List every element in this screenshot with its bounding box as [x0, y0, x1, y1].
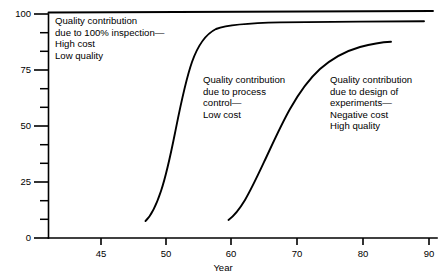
annotation-doe-line-2: due to design of	[330, 86, 412, 98]
x-tick-label-80: 80	[348, 249, 378, 259]
y-tick-label-50: 50	[2, 121, 31, 131]
x-tick-label-50: 50	[151, 249, 181, 259]
x-tick-label-60: 60	[216, 249, 246, 259]
annotation-doe-line-4: Negative cost	[330, 109, 412, 121]
x-tick-label-90: 90	[414, 249, 444, 259]
annotation-process-control-line-1: Quality contribution	[203, 74, 285, 86]
annotation-process-control-line-2: due to process	[203, 86, 285, 98]
annotation-inspection-line-1: Quality contribution	[55, 15, 164, 27]
annotation-process-control-line-4: Low cost	[203, 109, 285, 121]
y-tick-label-100: 100	[2, 9, 31, 19]
annotation-inspection-line-2: due to 100% inspection—	[55, 27, 164, 39]
annotation-doe-line-5: High quality	[330, 120, 412, 132]
annotation-process-control-line-3: control—	[203, 97, 285, 109]
x-tick-label-45: 45	[86, 249, 116, 259]
annotation-inspection-line-4: Low quality	[55, 50, 164, 62]
y-tick-label-75: 75	[2, 65, 31, 75]
quality-contribution-chart: 100 75 50 25 0 45 50 60 70 80 90 Year Qu…	[0, 0, 446, 276]
annotation-design-of-experiments: Quality contribution due to design of ex…	[330, 74, 412, 132]
annotation-doe-line-3: experiments—	[330, 97, 412, 109]
annotation-process-control: Quality contribution due to process cont…	[203, 74, 285, 120]
y-tick-label-0: 0	[2, 233, 31, 243]
series-line-inspection	[49, 11, 434, 13]
annotation-inspection-line-3: High cost	[55, 38, 164, 50]
x-tick-label-70: 70	[282, 249, 312, 259]
annotation-doe-line-1: Quality contribution	[330, 74, 412, 86]
x-axis-title: Year	[0, 262, 446, 273]
y-tick-label-25: 25	[2, 177, 31, 187]
annotation-inspection: Quality contribution due to 100% inspect…	[55, 15, 164, 61]
